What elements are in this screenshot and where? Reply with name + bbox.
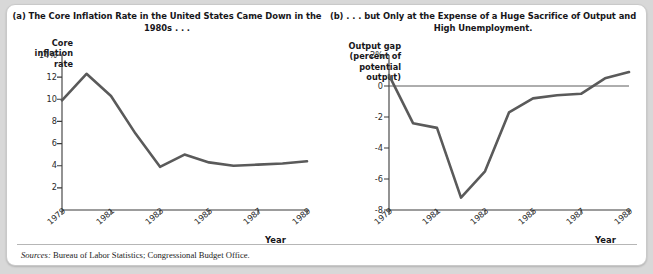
- figure-card: (a) The Core Inflation Rate in the Unite…: [6, 4, 647, 266]
- panel-b-title: (b) . . . but Only at the Expense of a H…: [327, 11, 639, 34]
- panel-a-y-ticks: [57, 55, 62, 188]
- panel-a-ytick-6: 6: [17, 138, 57, 148]
- source-divider: [17, 244, 637, 245]
- panel-a-ytick-12: 12: [17, 72, 57, 82]
- panel-a-ytick-14: 14%: [17, 50, 57, 60]
- panel-b-ytick-neg4: -4: [341, 143, 383, 153]
- panel-a-ytick-2: 2: [17, 182, 57, 192]
- chart-panel-b: (b) . . . but Only at the Expense of a H…: [323, 5, 643, 245]
- source-note: Sources: Bureau of Labor Statistics; Con…: [21, 250, 250, 260]
- panel-b-ytick-neg6: -6: [341, 174, 383, 184]
- panel-a-plot-area: [62, 55, 307, 210]
- panel-b-ytick-0: 0: [341, 81, 383, 91]
- panel-a-inflation-line: [62, 74, 307, 167]
- source-text: Bureau of Labor Statistics; Congressiona…: [51, 250, 250, 260]
- panel-b-ytick-neg2: -2: [341, 112, 383, 122]
- panel-a-ytick-4: 4: [17, 160, 57, 170]
- panel-a-ytick-10: 10: [17, 94, 57, 104]
- panel-a-title: (a) The Core Inflation Rate in the Unite…: [11, 11, 323, 34]
- panel-a-xtick-1979: 1979: [45, 206, 67, 227]
- source-label: Sources:: [21, 250, 51, 260]
- panel-b-plot-area: [389, 55, 629, 210]
- panel-b-output-gap-line: [389, 72, 629, 198]
- panel-a-ytick-8: 8: [17, 116, 57, 126]
- panel-b-ytick-2: 2%: [341, 50, 383, 60]
- chart-panel-a: (a) The Core Inflation Rate in the Unite…: [7, 5, 327, 245]
